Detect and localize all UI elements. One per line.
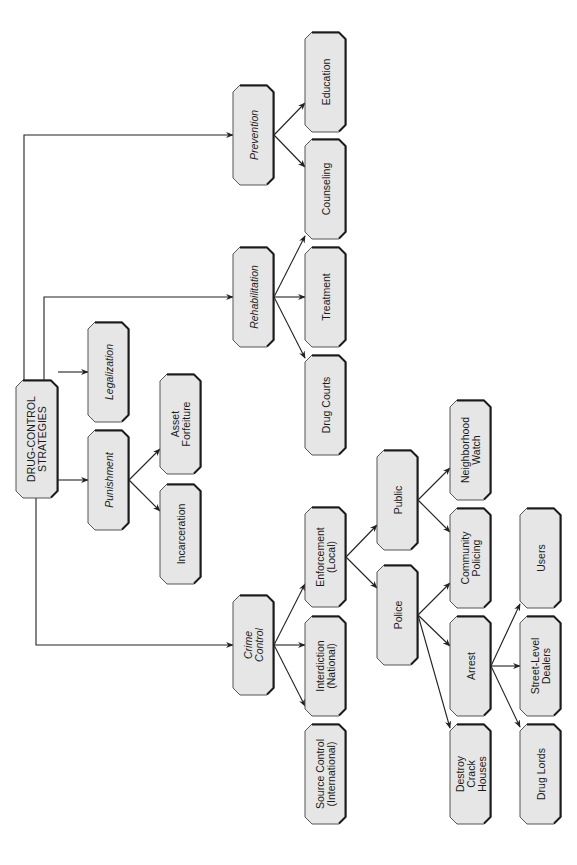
node-label: Street-Level Dealers <box>530 638 552 695</box>
edge-public-to-neighborhood-watch <box>418 468 450 500</box>
edge-police-to-destroy-crack-houses <box>418 615 450 728</box>
node-treatment: Treatment <box>305 247 346 347</box>
node-enforcement: Enforcement (Local) <box>305 507 346 607</box>
node-drug-courts: Drug Courts <box>305 355 346 455</box>
node-label: Counseling <box>320 163 331 216</box>
drug-control-strategies-diagram: DRUG-CONTROL STRATEGIESPreventionEducati… <box>0 0 577 865</box>
node-label: Punishment <box>103 452 114 507</box>
edge-police-to-community-policing <box>418 583 450 615</box>
node-education: Education <box>305 32 346 132</box>
node-interdiction: Interdiction (National) <box>305 616 346 716</box>
node-label: Arrest <box>465 652 476 680</box>
node-label: Crime Control <box>243 628 265 662</box>
node-label: Incarceration <box>175 504 186 565</box>
node-counseling: Counseling <box>305 139 346 239</box>
node-label: Users <box>535 544 546 571</box>
node-punishment: Punishment <box>88 430 129 530</box>
node-label: Legalization <box>103 344 114 400</box>
edge-root-to-crime-control <box>36 498 233 645</box>
node-community-policing: Community Policing <box>450 508 491 608</box>
node-users: Users <box>520 508 561 608</box>
node-label: Prevention <box>248 110 259 160</box>
node-legalization: Legalization <box>88 322 129 422</box>
node-root: DRUG-CONTROL STRATEGIES <box>16 380 58 498</box>
node-label: Public <box>392 486 403 515</box>
node-asset-forfeiture: Asset Forfeiture <box>160 374 201 474</box>
edge-arrest-to-users <box>491 604 520 666</box>
edge-public-to-community-policing <box>418 500 450 532</box>
node-label: Drug Lords <box>535 748 546 800</box>
node-label: DRUG-CONTROL STRATEGIES <box>26 396 48 482</box>
edge-enforcement-to-public <box>346 525 377 557</box>
node-neighborhood-watch: Neighborhood Watch <box>450 400 491 500</box>
node-label: Destroy Crack Houses <box>454 756 487 792</box>
node-police: Police <box>377 565 418 665</box>
node-label: Enforcement (Local) <box>315 527 337 587</box>
edge-prevention-to-counseling <box>274 135 305 167</box>
edge-punishment-to-asset-forfeiture <box>129 449 160 480</box>
edge-crime-control-to-enforcement <box>274 584 305 645</box>
node-prevention: Prevention <box>233 85 274 185</box>
edge-punishment-to-incarceration <box>129 480 160 511</box>
node-incarceration: Incarceration <box>160 484 201 584</box>
node-label: Drug Courts <box>320 377 331 434</box>
node-drug-lords: Drug Lords <box>520 724 561 824</box>
node-label: Education <box>320 59 331 106</box>
node-label: Police <box>392 601 403 630</box>
edge-crime-control-to-source-control <box>274 645 305 706</box>
node-label: Rehabilitation <box>248 265 259 329</box>
node-label: Treatment <box>320 273 331 320</box>
edge-arrest-to-drug-lords <box>491 666 520 727</box>
node-destroy-crack-houses: Destroy Crack Houses <box>450 724 491 824</box>
node-label: Neighborhood Watch <box>460 417 482 483</box>
node-label: Asset Forfeiture <box>170 402 192 447</box>
edge-prevention-to-education <box>274 103 305 135</box>
edge-rehabilitation-to-drug-courts <box>274 297 305 358</box>
node-label: Community Policing <box>460 531 482 584</box>
node-public: Public <box>377 450 418 550</box>
node-label: Source Control (International) <box>315 739 337 809</box>
node-rehabilitation: Rehabilitation <box>233 247 274 347</box>
node-street-level-dealers: Street-Level Dealers <box>520 616 561 716</box>
node-source-control: Source Control (International) <box>305 724 346 824</box>
node-crime-control: Crime Control <box>233 595 274 695</box>
node-label: Interdiction (National) <box>315 640 337 691</box>
edge-enforcement-to-police <box>346 557 377 588</box>
edge-rehabilitation-to-counseling <box>274 236 305 297</box>
edge-root-to-rehabilitation <box>44 297 233 380</box>
node-arrest: Arrest <box>450 616 491 716</box>
